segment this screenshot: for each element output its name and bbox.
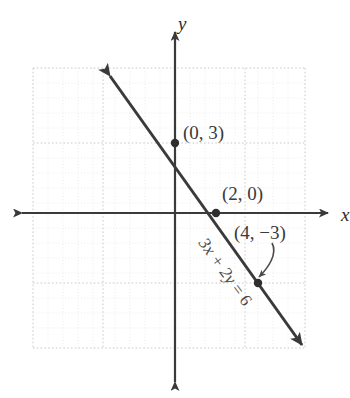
label-point-4-minus3: (4, −3) — [234, 222, 286, 244]
graph-figure: y x (0, 3) (2, 0) (4, −3) 3x + 2y = 6 — [0, 0, 350, 398]
x-axis-label: x — [340, 204, 350, 225]
point-x-intercept — [212, 209, 220, 217]
y-axis-label: y — [176, 13, 187, 34]
label-point-2-0: (2, 0) — [222, 183, 263, 205]
coordinate-plane-svg: y x (0, 3) (2, 0) (4, −3) 3x + 2y = 6 — [0, 0, 350, 398]
label-point-0-3: (0, 3) — [183, 122, 224, 144]
point-y-intercept — [171, 139, 179, 147]
point-third — [254, 279, 262, 287]
